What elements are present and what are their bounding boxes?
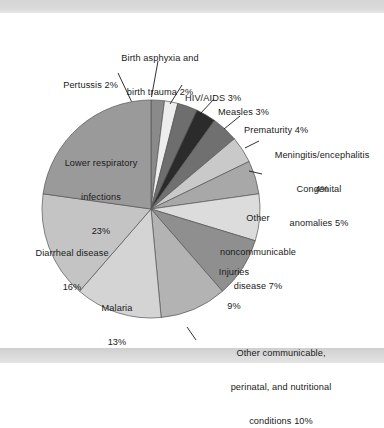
label-other-noncommunicable-line1: Other xyxy=(196,213,320,224)
label-lower-respiratory-line1: Lower respiratory xyxy=(44,158,158,169)
label-birth-asphyxia-line1: Birth asphyxia and xyxy=(105,53,215,64)
label-meningitis-line1: Meningitis/encephalitis xyxy=(262,150,382,161)
label-other-communicable-line3: conditions 10% xyxy=(194,416,368,427)
label-other-communicable: Other communicable, perinatal, and nutri… xyxy=(194,326,368,428)
label-lower-respiratory-line2: infections xyxy=(44,192,158,203)
label-other-communicable-line1: Other communicable, xyxy=(194,348,368,359)
pie-chart: Pertussis 2% Birth asphyxia and birth tr… xyxy=(0,13,384,348)
label-injuries-line2: 9% xyxy=(196,301,272,312)
label-lower-respiratory: Lower respiratory infections 23% xyxy=(44,136,158,259)
label-injuries-line1: Injuries xyxy=(196,267,272,278)
label-injuries: Injuries 9% xyxy=(196,245,272,335)
top-margin-band xyxy=(0,0,384,13)
label-pertussis: Pertussis 2% xyxy=(6,58,118,114)
label-diarrheal-line2: 16% xyxy=(14,282,130,293)
label-lower-respiratory-line3: 23% xyxy=(44,226,158,237)
label-pertussis-line1: Pertussis 2% xyxy=(6,80,118,91)
label-other-communicable-line2: perinatal, and nutritional xyxy=(194,382,368,393)
label-malaria-line2: 13% xyxy=(78,337,156,348)
